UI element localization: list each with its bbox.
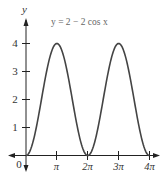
chart: y y = 2 − 2 cos x 1 2 3 4 0 π 2π 3π 4π — [0, 0, 163, 173]
x-tick-label-3pi: 3π — [112, 161, 124, 172]
y-axis-down-arrow-icon — [24, 165, 29, 172]
curve-y-2-minus-2cosx — [26, 44, 150, 156]
y-axis-up-arrow-icon — [24, 18, 29, 26]
x-tick-label-pi: π — [54, 161, 60, 172]
origin-label: 0 — [16, 158, 22, 170]
y-tick-label-2: 2 — [12, 93, 18, 105]
x-tick-label-2pi: 2π — [82, 161, 93, 172]
y-tick-label-3: 3 — [12, 65, 18, 77]
x-axis-right-arrow-icon — [153, 153, 160, 158]
y-tick-label-4: 4 — [12, 37, 18, 49]
equation-label: y = 2 − 2 cos x — [51, 17, 108, 27]
y-tick-label-1: 1 — [12, 121, 18, 133]
y-axis-label: y — [21, 3, 27, 15]
x-axis-left-arrow-icon — [8, 153, 15, 158]
x-tick-label-4pi: 4π — [144, 161, 155, 172]
